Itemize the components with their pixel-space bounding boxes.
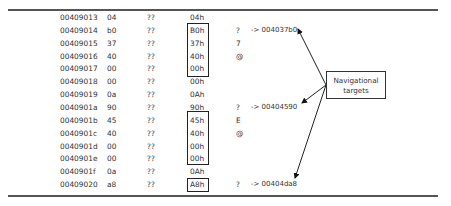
navigational-targets-callout: Navigational targets — [326, 71, 386, 99]
bottom-rule — [8, 195, 438, 197]
callout-line-2: targets — [327, 86, 385, 96]
callout-arrows — [0, 0, 451, 206]
arrow-to-target-3 — [295, 85, 326, 178]
callout-line-1: Navigational — [327, 76, 385, 86]
arrow-to-target-2 — [302, 85, 326, 103]
arrow-to-target-1 — [298, 29, 326, 85]
